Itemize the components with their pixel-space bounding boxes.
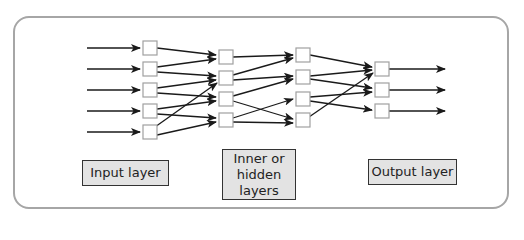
hidden-layers-label: Inner or hidden layers <box>222 149 296 200</box>
hidden-layers-label-line2: hidden <box>237 167 282 183</box>
hidden-layer-1-nodes <box>219 50 233 127</box>
node <box>296 92 310 106</box>
input-arrows <box>87 48 140 132</box>
input-layer-label-text: Input layer <box>90 165 160 181</box>
output-layer-label: Output layer <box>368 159 457 185</box>
input-layer-label: Input layer <box>82 160 169 186</box>
connections-layer3-to-output <box>309 55 373 117</box>
input-layer-nodes <box>143 41 157 139</box>
node <box>375 62 389 76</box>
node <box>143 62 157 76</box>
output-arrows <box>389 69 445 111</box>
node <box>143 125 157 139</box>
node <box>375 104 389 118</box>
node <box>219 50 233 64</box>
node <box>296 48 310 62</box>
node <box>143 41 157 55</box>
node <box>219 113 233 127</box>
node <box>219 71 233 85</box>
output-layer-label-text: Output layer <box>372 164 454 180</box>
connections-layer2-to-layer3 <box>233 55 293 123</box>
node <box>296 113 310 127</box>
hidden-layers-label-line3: layers <box>239 183 278 199</box>
node <box>296 70 310 84</box>
node <box>143 104 157 118</box>
hidden-layer-2-nodes <box>296 48 310 127</box>
hidden-layers-label-line1: Inner or <box>233 151 284 167</box>
node <box>219 92 233 106</box>
output-layer-nodes <box>375 62 389 118</box>
node <box>375 83 389 97</box>
connections-layer1-to-layer2 <box>155 48 217 135</box>
node <box>143 83 157 97</box>
